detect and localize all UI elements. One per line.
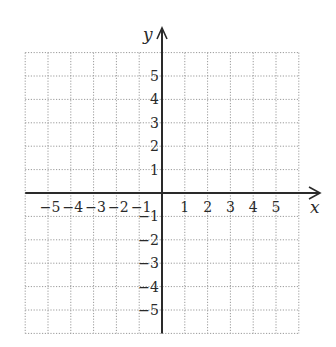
y-tick-label: 2 xyxy=(150,138,159,154)
x-tick-label: −3 xyxy=(85,199,106,215)
y-tick-label: −3 xyxy=(138,255,159,271)
x-axis-label: x xyxy=(310,197,320,217)
y-tick-label: −2 xyxy=(138,232,159,248)
y-tick-label: −1 xyxy=(138,208,159,224)
y-tick-label: −5 xyxy=(138,302,159,318)
x-tick-label: 4 xyxy=(249,199,258,215)
y-tick-label: 1 xyxy=(150,162,159,178)
y-tick-label: 5 xyxy=(150,68,159,84)
x-tick-label: −5 xyxy=(40,199,61,215)
x-tick-label: 3 xyxy=(226,199,235,215)
coordinate-plane: −5−4−3−2−11234554321−1−2−3−4−5 x y xyxy=(0,0,336,347)
x-tick-label: −4 xyxy=(62,199,83,215)
x-tick-label: 2 xyxy=(203,199,212,215)
x-tick-label: −2 xyxy=(108,199,129,215)
y-tick-label: 3 xyxy=(150,115,159,131)
y-tick-label: −4 xyxy=(138,279,159,295)
y-axis-label: y xyxy=(142,24,153,44)
x-tick-label: 1 xyxy=(180,199,189,215)
y-tick-label: 4 xyxy=(150,91,159,107)
x-tick-label: 5 xyxy=(272,199,281,215)
axes xyxy=(25,28,320,333)
